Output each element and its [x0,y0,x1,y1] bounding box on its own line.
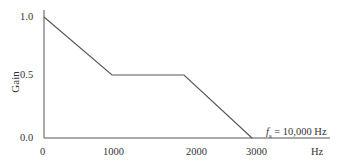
x-tick-0: 0 [40,146,45,157]
x-tick-3000: 3000 [246,146,267,157]
y-tick-1.0: 1.0 [20,11,33,22]
y-tick-0.0: 0.0 [20,132,33,143]
x-tick-2000: 2000 [186,146,207,157]
x-tick-1000: 1000 [103,146,124,157]
fs-value: = 10,000 Hz [274,126,326,137]
sampling-rate-annotation: fs = 10,000 Hz [266,126,327,142]
gain-curve [44,17,252,138]
x-axis-unit: Hz [311,146,323,157]
y-axis-label: Gain [9,71,21,92]
y-tick-0.5: 0.5 [20,69,33,80]
fs-subscript: s [269,132,272,140]
